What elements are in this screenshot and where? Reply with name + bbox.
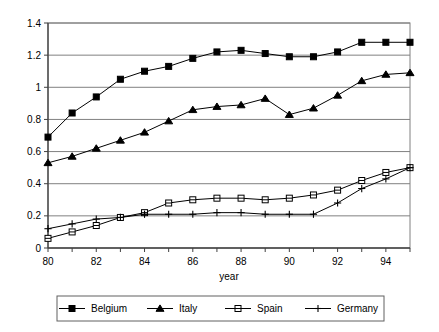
marker-filled-square [214, 49, 220, 55]
x-axis-title: year [219, 271, 239, 282]
y-axis-tick-label: 0.6 [27, 146, 41, 157]
marker-filled-square [262, 51, 268, 57]
legend-label: Belgium [91, 303, 127, 314]
marker-filled-square [190, 55, 196, 61]
x-axis-tick-label: 84 [139, 256, 151, 267]
marker-filled-square [286, 54, 292, 60]
x-axis-tick-label: 82 [91, 256, 103, 267]
y-axis-tick-label: 1.4 [27, 18, 41, 29]
marker-filled-square [383, 39, 389, 45]
x-axis-tick-label: 90 [284, 256, 296, 267]
marker-filled-square [117, 76, 123, 82]
marker-filled-square [335, 49, 341, 55]
y-axis-tick-label: 1 [35, 82, 41, 93]
x-axis-tick-label: 80 [42, 256, 54, 267]
marker-filled-square [69, 110, 75, 116]
plot-background [48, 23, 410, 248]
marker-filled-square [69, 306, 75, 312]
marker-filled-square [407, 39, 413, 45]
x-axis-tick-label: 92 [332, 256, 344, 267]
chart-canvas: 00.20.40.60.811.21.48082848688909294year… [0, 0, 439, 332]
marker-filled-square [166, 63, 172, 69]
y-axis-tick-label: 1.2 [27, 50, 41, 61]
x-axis-tick-label: 86 [187, 256, 199, 267]
legend-label: Spain [257, 303, 283, 314]
y-axis-tick-label: 0.8 [27, 114, 41, 125]
marker-filled-square [238, 47, 244, 53]
marker-filled-square [93, 94, 99, 100]
legend-label: Germany [337, 303, 378, 314]
legend-label: Italy [179, 303, 197, 314]
marker-filled-square [45, 134, 51, 140]
marker-filled-square [359, 39, 365, 45]
marker-filled-square [142, 68, 148, 74]
y-axis-tick-label: 0.2 [27, 210, 41, 221]
y-axis-tick-label: 0.4 [27, 178, 41, 189]
line-chart: 00.20.40.60.811.21.48082848688909294year… [0, 0, 439, 332]
x-axis-tick-label: 88 [236, 256, 248, 267]
marker-filled-square [310, 54, 316, 60]
y-axis-tick-label: 0 [35, 243, 41, 254]
x-axis-tick-label: 94 [380, 256, 392, 267]
